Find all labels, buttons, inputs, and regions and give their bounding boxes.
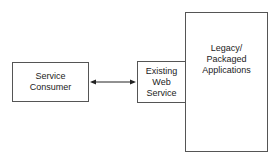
bidirectional-arrow [0, 0, 279, 159]
